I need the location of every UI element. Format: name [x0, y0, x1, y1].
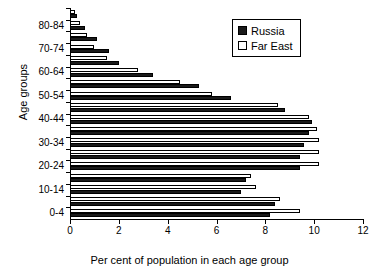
bar-russia: [70, 166, 300, 170]
y-axis-title: Age groups: [17, 47, 29, 137]
bar-russia: [70, 120, 312, 124]
bar-russia: [70, 202, 275, 206]
bar-group: [70, 172, 363, 184]
x-axis-title: Per cent of population in each age group: [0, 254, 379, 266]
legend-item-far-east: Far East: [238, 38, 293, 53]
bar-far-east: [70, 150, 319, 154]
bar-far-east: [70, 45, 94, 49]
bar-far-east: [70, 56, 107, 60]
x-tick-label: 12: [348, 225, 378, 236]
x-tick-label: 2: [104, 225, 134, 236]
bar-group: [70, 8, 363, 20]
bar-far-east: [70, 10, 75, 14]
bar-group: [70, 20, 363, 32]
x-tick-label: 4: [153, 225, 183, 236]
bar-group: [70, 67, 363, 79]
y-tick-label: 80-84: [6, 20, 64, 31]
bar-group: [70, 43, 363, 55]
bar-group: [70, 207, 363, 219]
bar-group: [70, 90, 363, 102]
y-tick-label: 40-44: [6, 113, 64, 124]
x-tick: [363, 220, 364, 224]
bar-russia: [70, 190, 241, 194]
bar-group: [70, 137, 363, 149]
bar-russia: [70, 143, 304, 147]
bar-far-east: [70, 162, 319, 166]
bar-russia: [70, 73, 153, 77]
chart-figure: 024681012 0-410-1420-2430-3440-4450-5460…: [0, 0, 379, 277]
bar-group: [70, 55, 363, 67]
bar-russia: [70, 37, 97, 41]
bar-group: [70, 31, 363, 43]
legend-label: Russia: [251, 25, 285, 37]
bar-russia: [70, 49, 109, 53]
plot-area: [70, 8, 363, 219]
bar-russia: [70, 14, 77, 18]
y-tick-label: 50-54: [6, 90, 64, 101]
bar-far-east: [70, 197, 280, 201]
bar-far-east: [70, 33, 87, 37]
legend-swatch-hollow-square-icon: [238, 41, 247, 50]
bar-russia: [70, 84, 199, 88]
bar-group: [70, 125, 363, 137]
bar-group: [70, 196, 363, 208]
legend: Russia Far East: [232, 19, 301, 57]
legend-label: Far East: [251, 40, 293, 52]
bar-russia: [70, 155, 300, 159]
y-tick-label: 30-34: [6, 137, 64, 148]
x-tick: [168, 220, 169, 224]
y-tick-label: 10-14: [6, 184, 64, 195]
bar-russia: [70, 61, 119, 65]
x-tick-label: 10: [299, 225, 329, 236]
bar-far-east: [70, 21, 80, 25]
bar-far-east: [70, 92, 212, 96]
bar-far-east: [70, 103, 278, 107]
x-tick: [217, 220, 218, 224]
y-tick-label: 20-24: [6, 160, 64, 171]
bar-group: [70, 184, 363, 196]
y-tick-label: 0-4: [6, 207, 64, 218]
bar-group: [70, 102, 363, 114]
bar-far-east: [70, 138, 319, 142]
x-tick: [70, 220, 71, 224]
bar-russia: [70, 131, 309, 135]
x-tick: [265, 220, 266, 224]
bar-far-east: [70, 174, 251, 178]
y-tick-label: 70-74: [6, 43, 64, 54]
bar-far-east: [70, 115, 309, 119]
bar-far-east: [70, 68, 138, 72]
bar-russia: [70, 108, 285, 112]
legend-swatch-filled-square-icon: [238, 26, 247, 35]
bar-russia: [70, 96, 231, 100]
x-tick: [314, 220, 315, 224]
bar-far-east: [70, 80, 180, 84]
bar-far-east: [70, 209, 300, 213]
bar-group: [70, 114, 363, 126]
bar-russia: [70, 213, 270, 217]
bar-russia: [70, 178, 246, 182]
y-tick-label: 60-64: [6, 66, 64, 77]
bar-group: [70, 78, 363, 90]
bar-group: [70, 160, 363, 172]
x-tick-label: 8: [250, 225, 280, 236]
x-tick: [119, 220, 120, 224]
bar-far-east: [70, 185, 256, 189]
legend-item-russia: Russia: [238, 23, 293, 38]
bar-far-east: [70, 127, 317, 131]
x-tick-label: 6: [202, 225, 232, 236]
y-axis-labels: 0-410-1420-2430-3440-4450-5460-6470-7480…: [0, 0, 64, 277]
bar-group: [70, 149, 363, 161]
bar-russia: [70, 26, 85, 30]
